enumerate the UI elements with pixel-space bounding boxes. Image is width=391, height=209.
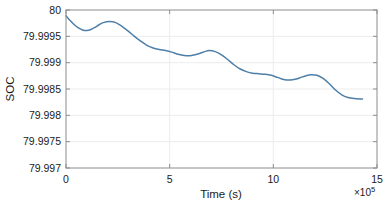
y-tick-label: 80 [49, 4, 61, 16]
x-tick-label: 5 [167, 173, 173, 185]
y-tick-label: 79.999 [29, 56, 61, 68]
x-tick-label: 0 [63, 173, 69, 185]
y-tick-label: 79.9985 [23, 83, 61, 95]
y-tick-label: 79.998 [29, 109, 61, 121]
y-tick-label: 79.997 [29, 162, 61, 174]
x-tick-label: 10 [267, 173, 279, 185]
y-tick-label: 79.9975 [23, 135, 61, 147]
soc-time-line-chart: 79.99779.997579.99879.998579.99979.99958… [0, 0, 391, 209]
y-tick-label: 79.9995 [23, 30, 61, 42]
chart-figure: 79.99779.997579.99879.998579.99979.99958… [0, 0, 391, 209]
x-tick-label: 15 [371, 173, 383, 185]
x-axis-title: Time (s) [200, 188, 242, 200]
y-axis-title: SOC [4, 77, 16, 102]
